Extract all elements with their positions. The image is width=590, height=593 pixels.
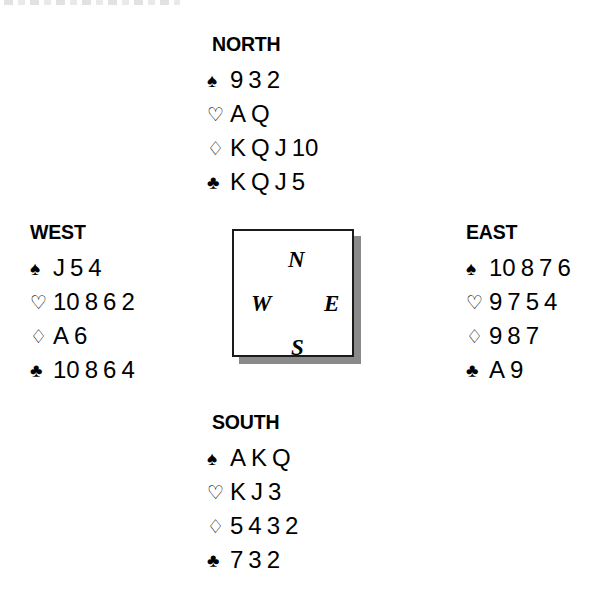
compass-east-label: E: [324, 292, 339, 315]
suit-row-clubs: ♣ A9: [466, 353, 571, 387]
suit-list-south: ♠ AKQ ♡ KJ3 ♢ 5432 ♣ 732: [207, 441, 298, 577]
heart-icon: ♡: [207, 483, 230, 502]
diamond-icon: ♢: [30, 327, 53, 346]
card-rank: Q: [251, 170, 270, 194]
card-rank: 6: [103, 290, 116, 314]
card-rank: A: [53, 324, 69, 348]
card-rank: 4: [248, 514, 261, 538]
card-rank: 6: [103, 358, 116, 382]
heart-icon: ♡: [466, 293, 489, 312]
card-rank: 2: [267, 68, 280, 92]
suit-row-diamonds: ♢ 987: [466, 319, 571, 353]
card-rank: 4: [88, 256, 101, 280]
suit-row-clubs: ♣ KQJ5: [207, 165, 318, 199]
card-rank: 8: [85, 290, 98, 314]
ranks-clubs: 10864: [53, 358, 135, 382]
card-rank: K: [230, 136, 246, 160]
ranks-diamonds: KQJ10: [230, 136, 318, 160]
ranks-hearts: 10862: [53, 290, 135, 314]
diamond-icon: ♢: [466, 327, 489, 346]
card-rank: K: [230, 170, 246, 194]
ranks-diamonds: 5432: [230, 514, 298, 538]
card-rank: 7: [526, 324, 539, 348]
suit-row-hearts: ♡ AQ: [207, 97, 318, 131]
card-rank: K: [230, 480, 246, 504]
spade-icon: ♠: [207, 449, 230, 468]
ranks-diamonds: 987: [489, 324, 539, 348]
suit-row-hearts: ♡ 10862: [30, 285, 135, 319]
card-rank: 5: [230, 514, 243, 538]
card-rank: Q: [272, 446, 291, 470]
bridge-deal-diagram: NORTH ♠ 932 ♡ AQ ♢ KQJ10 ♣ KQJ5 WEST: [0, 0, 590, 593]
ranks-spades: J54: [53, 256, 102, 280]
ranks-hearts: KJ3: [230, 480, 281, 504]
ranks-spades: AKQ: [230, 446, 291, 470]
card-rank: 9: [230, 68, 243, 92]
card-rank: J: [53, 256, 65, 280]
card-rank: 9: [489, 290, 502, 314]
hand-west: WEST ♠ J54 ♡ 10862 ♢ A6 ♣ 10864: [30, 221, 135, 387]
hand-north: NORTH ♠ 932 ♡ AQ ♢ KQJ10 ♣ KQJ5: [207, 33, 318, 199]
card-rank: 3: [268, 480, 281, 504]
spade-icon: ♠: [207, 71, 230, 90]
club-icon: ♣: [207, 551, 230, 570]
card-rank: 10: [489, 256, 516, 280]
ranks-hearts: AQ: [230, 102, 270, 126]
card-rank: 3: [248, 68, 261, 92]
compass-box-frame: N W E S: [232, 229, 354, 357]
card-rank: 3: [267, 514, 280, 538]
ranks-clubs: 732: [230, 548, 280, 572]
suit-row-diamonds: ♢ 5432: [207, 509, 298, 543]
hand-east: EAST ♠ 10876 ♡ 9754 ♢ 987 ♣ A9: [466, 221, 571, 387]
card-rank: 4: [544, 290, 557, 314]
hand-label-east: EAST: [466, 221, 563, 242]
suit-list-west: ♠ J54 ♡ 10862 ♢ A6 ♣ 10864: [30, 251, 135, 387]
suit-row-diamonds: ♢ KQJ10: [207, 131, 318, 165]
suit-list-north: ♠ 932 ♡ AQ ♢ KQJ10 ♣ KQJ5: [207, 63, 318, 199]
suit-row-spades: ♠ AKQ: [207, 441, 298, 475]
scan-artifact: [4, 0, 180, 5]
diamond-icon: ♢: [207, 517, 230, 536]
spade-icon: ♠: [466, 259, 489, 278]
compass-box: N W E S: [232, 229, 354, 357]
suit-row-spades: ♠ J54: [30, 251, 135, 285]
card-rank: 7: [507, 290, 520, 314]
card-rank: 6: [557, 256, 570, 280]
ranks-diamonds: A6: [53, 324, 87, 348]
suit-list-east: ♠ 10876 ♡ 9754 ♢ 987 ♣ A9: [466, 251, 571, 387]
ranks-clubs: A9: [489, 358, 523, 382]
heart-icon: ♡: [30, 293, 53, 312]
heart-icon: ♡: [207, 105, 230, 124]
ranks-clubs: KQJ5: [230, 170, 305, 194]
compass-north-label: N: [288, 248, 305, 271]
card-rank: A: [489, 358, 505, 382]
hand-label-west: WEST: [30, 221, 127, 242]
card-rank: J: [275, 170, 287, 194]
suit-row-clubs: ♣ 732: [207, 543, 298, 577]
card-rank: 5: [70, 256, 83, 280]
card-rank: A: [230, 102, 246, 126]
card-rank: Q: [251, 136, 270, 160]
suit-row-clubs: ♣ 10864: [30, 353, 135, 387]
card-rank: 7: [230, 548, 243, 572]
compass-south-label: S: [291, 336, 304, 359]
compass-west-label: W: [251, 292, 271, 315]
spade-icon: ♠: [30, 259, 53, 278]
card-rank: 2: [121, 290, 134, 314]
card-rank: 3: [248, 548, 261, 572]
card-rank: 5: [292, 170, 305, 194]
card-rank: A: [230, 446, 246, 470]
hand-south: SOUTH ♠ AKQ ♡ KJ3 ♢ 5432 ♣ 732: [207, 411, 298, 577]
card-rank: 10: [53, 358, 80, 382]
club-icon: ♣: [207, 173, 230, 192]
card-rank: 10: [292, 136, 319, 160]
card-rank: 9: [510, 358, 523, 382]
club-icon: ♣: [30, 361, 53, 380]
ranks-spades: 10876: [489, 256, 571, 280]
suit-row-hearts: ♡ KJ3: [207, 475, 298, 509]
card-rank: 10: [53, 290, 80, 314]
suit-row-spades: ♠ 10876: [466, 251, 571, 285]
suit-row-spades: ♠ 932: [207, 63, 318, 97]
ranks-spades: 932: [230, 68, 280, 92]
club-icon: ♣: [466, 361, 489, 380]
